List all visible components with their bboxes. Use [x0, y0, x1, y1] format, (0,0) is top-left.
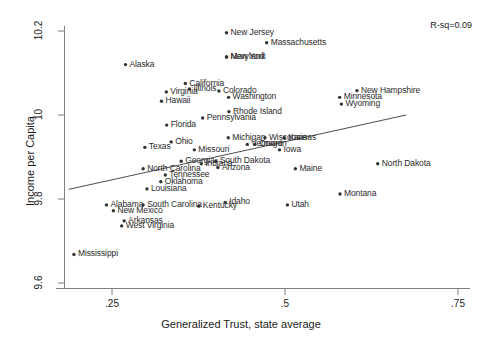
data-point-label: West Virginia [126, 221, 174, 230]
data-point [227, 96, 230, 99]
data-point [340, 102, 343, 105]
data-point [105, 203, 108, 206]
data-point-label: Missouri [198, 145, 229, 154]
data-point-label: New Mexico [117, 206, 162, 215]
data-point-label: Louisiana [151, 184, 187, 193]
data-point-label: Pennsylvania [207, 113, 256, 122]
data-point [225, 31, 228, 34]
data-point-label: Maryland [231, 52, 265, 61]
y-tick-label: 9.6 [33, 263, 44, 303]
data-point-label: Utah [291, 200, 309, 209]
data-point-label: Ohio [175, 137, 193, 146]
fit-line [69, 115, 406, 189]
data-point [120, 224, 123, 227]
data-point-label: Wyoming [345, 99, 380, 108]
data-point-label: Hawaii [165, 96, 190, 105]
data-point-label: Mississippi [78, 249, 118, 258]
scatter-plot-figure: New JerseyMassachusettsNew YorkMarylandA… [0, 0, 482, 345]
regression-line [69, 115, 406, 189]
data-point [143, 146, 146, 149]
data-point-label: Montana [344, 189, 376, 198]
data-point-label: New Jersey [231, 28, 274, 37]
x-axis-title: Generalized Trust, state average [0, 318, 482, 330]
x-tick-label: .75 [438, 298, 478, 309]
data-point [227, 136, 230, 139]
data-point-label: North Dakota [382, 159, 431, 168]
data-point [112, 209, 115, 212]
data-point [278, 148, 281, 151]
data-point [225, 55, 228, 58]
data-point [141, 167, 144, 170]
data-point [193, 148, 196, 151]
data-point [165, 90, 168, 93]
data-point [338, 96, 341, 99]
data-point-label: Idaho [229, 197, 250, 206]
x-tick-label: .5 [265, 298, 305, 309]
data-point-label: Kansas [288, 133, 316, 142]
data-point [124, 63, 127, 66]
data-point [72, 253, 75, 256]
data-point [160, 99, 163, 102]
data-point-label: Florida [171, 120, 196, 129]
data-point [338, 192, 341, 195]
data-point-label: Massachusetts [271, 38, 326, 47]
data-point-label: Alaska [129, 60, 154, 69]
y-tick-label: 10.2 [33, 11, 44, 51]
data-point [145, 187, 148, 190]
data-point [201, 116, 204, 119]
data-point-label: Arizona [222, 163, 250, 172]
y-axis-title: Income per Capita [24, 71, 36, 251]
data-point [165, 123, 168, 126]
r-squared-annotation: R-sq=0.09 [430, 20, 472, 30]
data-point [184, 82, 187, 85]
data-point [246, 143, 249, 146]
data-point-label: Texas [149, 142, 171, 151]
data-point [265, 41, 268, 44]
data-point [376, 162, 379, 165]
data-point [217, 89, 220, 92]
data-point [286, 203, 289, 206]
data-point-label: Washington [233, 92, 277, 101]
data-point-label: Iowa [283, 145, 301, 154]
data-point [294, 167, 297, 170]
data-point-label: Maine [299, 164, 322, 173]
x-tick-label: .25 [92, 298, 132, 309]
